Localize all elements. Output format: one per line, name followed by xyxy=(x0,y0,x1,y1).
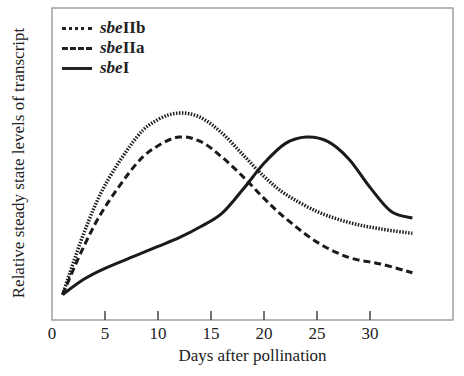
x-axis-ticks: 051015202530 xyxy=(48,311,379,343)
legend-item-sbeiib: sbeIIb xyxy=(62,18,145,38)
dotted-line-swatch-icon xyxy=(62,27,92,30)
x-tick-label: 0 xyxy=(48,324,57,343)
series-line-sbei xyxy=(63,137,413,295)
y-axis-label: Relative steady state levels of transcri… xyxy=(9,8,29,318)
legend-item-sbei: sbeI xyxy=(62,58,145,78)
series-line-sbeiib xyxy=(63,113,413,295)
legend: sbeIIb sbeIIa sbeI xyxy=(62,18,145,78)
x-tick-label: 5 xyxy=(101,324,110,343)
series-lines xyxy=(63,113,413,295)
solid-line-swatch-icon xyxy=(62,67,92,70)
x-tick-label: 20 xyxy=(256,324,273,343)
series-line-sbeiia xyxy=(63,137,413,295)
x-axis-label: Days after pollination xyxy=(52,346,453,366)
legend-item-sbeiia: sbeIIa xyxy=(62,38,145,58)
x-tick-label: 15 xyxy=(203,324,220,343)
x-tick-label: 25 xyxy=(309,324,326,343)
x-tick-label: 30 xyxy=(362,324,379,343)
dashed-line-swatch-icon xyxy=(62,47,92,50)
x-tick-label: 10 xyxy=(150,324,167,343)
